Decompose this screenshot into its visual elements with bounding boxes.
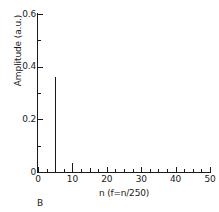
y-axis-major-tick xyxy=(38,172,43,173)
spectrum-spike xyxy=(90,168,91,172)
x-axis-spine xyxy=(37,172,211,173)
x-axis-label: n (f=n/250) xyxy=(38,188,210,198)
x-axis-tick-label: 50 xyxy=(198,175,219,184)
x-axis-tick-label: 0 xyxy=(26,175,50,184)
y-axis-tick-label: 0.4 xyxy=(22,62,36,71)
x-axis-tick-label: 40 xyxy=(164,175,188,184)
y-axis-tick-label: 0.2 xyxy=(22,115,36,124)
x-axis-tick-label: 20 xyxy=(95,175,119,184)
x-axis-tick-label: 10 xyxy=(60,175,84,184)
figure-panel-b: Amplitude (a.u.) n (f=n/250) 00.20.40.6 … xyxy=(0,0,219,212)
spectrum-spike xyxy=(55,77,56,172)
plot-area xyxy=(38,14,210,172)
panel-label: B xyxy=(37,199,43,208)
y-axis-label: Amplitude (a.u.) xyxy=(14,0,23,111)
spectrum-spike xyxy=(107,170,108,172)
y-axis-tick-label: 0.6 xyxy=(22,10,36,19)
x-axis-major-tick xyxy=(210,167,211,172)
x-axis-tick-label: 30 xyxy=(129,175,153,184)
spectrum-spike xyxy=(72,163,73,172)
